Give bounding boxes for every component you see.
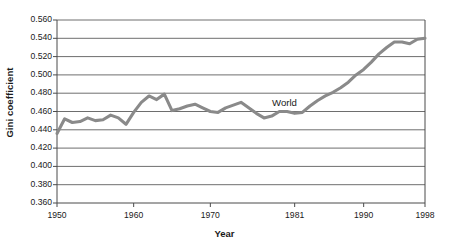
x-tick-label: 1970 <box>190 210 230 220</box>
y-tick-label: 0.400 <box>10 160 52 170</box>
y-tick-label: 0.460 <box>10 106 52 116</box>
y-tick-label: 0.360 <box>10 197 52 207</box>
series-annotation-world: World <box>272 97 297 108</box>
x-tick-label: 1950 <box>37 210 77 220</box>
x-tick-marks-group <box>57 203 425 207</box>
x-tick-label: 1998 <box>405 210 445 220</box>
y-tick-label: 0.480 <box>10 87 52 97</box>
series-line-world <box>57 38 425 133</box>
y-tick-label: 0.380 <box>10 179 52 189</box>
y-tick-label: 0.440 <box>10 124 52 134</box>
x-tick-label: 1990 <box>344 210 384 220</box>
gini-coefficient-line-chart: 0.5600.5400.5200.5000.4800.4600.4400.420… <box>0 0 449 250</box>
y-tick-label: 0.420 <box>10 142 52 152</box>
y-tick-label: 0.500 <box>10 69 52 79</box>
y-tick-label: 0.540 <box>10 32 52 42</box>
y-tick-label: 0.520 <box>10 51 52 61</box>
x-tick-label: 1981 <box>275 210 315 220</box>
y-tick-marks-group <box>53 20 57 203</box>
x-tick-label: 1960 <box>114 210 154 220</box>
y-tick-label: 0.560 <box>10 14 52 24</box>
x-axis-title: Year <box>0 228 449 239</box>
